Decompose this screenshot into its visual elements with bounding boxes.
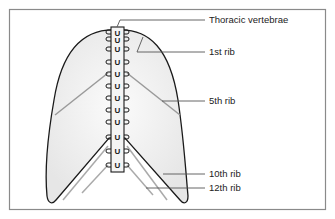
svg-text:U: U xyxy=(115,106,121,115)
svg-text:U: U xyxy=(115,58,121,67)
label-rib-5: 5th rib xyxy=(209,96,235,106)
label-rib-1: 1st rib xyxy=(209,47,235,57)
label-rib-10: 10th rib xyxy=(209,169,241,179)
svg-text:U: U xyxy=(115,147,121,156)
svg-text:U: U xyxy=(115,82,121,91)
svg-text:U: U xyxy=(115,161,121,170)
thorax-diagram: U U U U U U U U U U U U xyxy=(0,0,335,219)
svg-text:U: U xyxy=(115,133,121,142)
svg-text:U: U xyxy=(115,70,121,79)
label-rib-12: 12th rib xyxy=(209,183,241,193)
svg-text:U: U xyxy=(115,94,121,103)
svg-text:U: U xyxy=(115,118,121,127)
svg-text:U: U xyxy=(115,36,121,45)
svg-text:U: U xyxy=(115,45,121,54)
label-thoracic-vertebrae: Thoracic vertebrae xyxy=(209,15,288,25)
vertebra-glyphs: U U U U U U U U U U U U xyxy=(115,29,121,170)
